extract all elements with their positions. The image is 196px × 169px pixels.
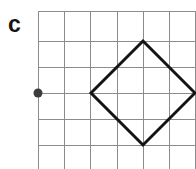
point-layer — [34, 89, 43, 98]
point-center-of-rotation — [34, 89, 43, 98]
grid-lines — [38, 11, 196, 169]
figure-panel: c — [0, 0, 196, 169]
grid-diagram-canvas — [0, 0, 196, 169]
